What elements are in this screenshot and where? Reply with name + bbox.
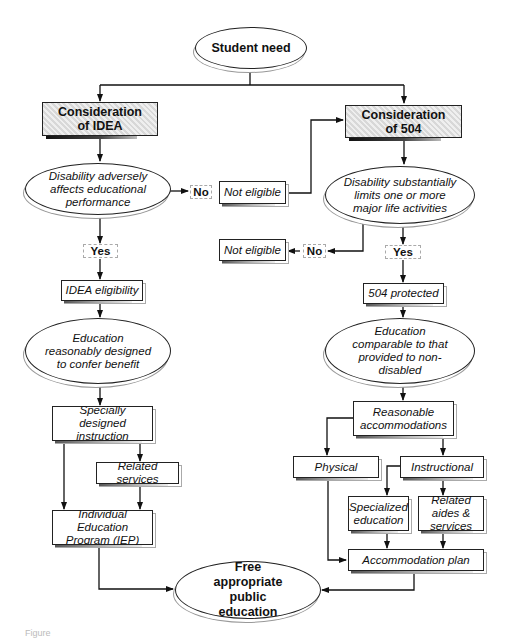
504-protected-label: 504 protected bbox=[368, 287, 438, 300]
specially-designed-label: Specially designed instruction bbox=[57, 404, 148, 443]
student-need-node: Student need bbox=[195, 27, 307, 69]
reasonable-accommodations-node: Reasonable accommodations bbox=[353, 401, 454, 436]
iep-label: Individual Education Program (IEP) bbox=[56, 508, 149, 547]
specialized-education-node: Specialized education bbox=[348, 496, 409, 531]
yes-label-504: Yes bbox=[385, 245, 421, 259]
idea-eligibility-question: Disability adversely affects educational… bbox=[25, 163, 171, 215]
reasonable-accommodations-label: Reasonable accommodations bbox=[360, 406, 447, 432]
physical-node: Physical bbox=[293, 456, 379, 478]
accommodation-plan-label: Accommodation plan bbox=[362, 554, 469, 567]
504-standard-label: Education comparable to that provided to… bbox=[348, 325, 452, 377]
specially-designed-instruction-node: Specially designed instruction bbox=[52, 406, 153, 441]
idea-question-label: Disability adversely affects educational… bbox=[34, 170, 162, 209]
not-eligible-bottom-node: Not eligible bbox=[219, 239, 286, 261]
504-standard-node: Education comparable to that provided to… bbox=[325, 318, 475, 384]
related-services-label: Related services bbox=[97, 460, 178, 486]
student-need-label: Student need bbox=[211, 41, 290, 56]
consideration-idea-node: Consideration of IDEA bbox=[42, 102, 158, 136]
idea-standard-label: Education reasonably designed to confer … bbox=[44, 332, 152, 371]
consideration-504-node: Consideration of 504 bbox=[345, 105, 462, 138]
consideration-idea-label: Consideration of IDEA bbox=[51, 105, 149, 133]
iep-node: Individual Education Program (IEP) bbox=[52, 510, 153, 545]
idea-eligibility-node: IDEA eligibility bbox=[61, 280, 143, 301]
fape-label: Free appropriate public education bbox=[202, 560, 294, 620]
504-question-label: Disability substantially limits one or m… bbox=[340, 176, 460, 215]
not-eligible-top-node: Not eligible bbox=[219, 181, 286, 204]
fape-node: Free appropriate public education bbox=[175, 561, 321, 619]
504-eligibility-question: Disability substantially limits one or m… bbox=[325, 166, 475, 224]
related-aides-node: Related aides & services bbox=[418, 496, 484, 531]
yes-label-idea: Yes bbox=[83, 244, 118, 258]
physical-label: Physical bbox=[315, 461, 358, 474]
specialized-education-label: Specialized education bbox=[349, 501, 408, 527]
no-label-504: No bbox=[303, 244, 326, 258]
instructional-label: Instructional bbox=[411, 461, 473, 474]
related-aides-label: Related aides & services bbox=[420, 494, 482, 533]
not-eligible-top-label: Not eligible bbox=[224, 186, 281, 199]
504-protected-node: 504 protected bbox=[363, 283, 444, 304]
not-eligible-bottom-label: Not eligible bbox=[224, 244, 281, 257]
figure-caption: Figure bbox=[25, 628, 51, 638]
idea-standard-node: Education reasonably designed to confer … bbox=[25, 318, 171, 384]
instructional-node: Instructional bbox=[400, 456, 484, 478]
accommodation-plan-node: Accommodation plan bbox=[348, 549, 484, 571]
consideration-504-label: Consideration of 504 bbox=[354, 108, 453, 136]
idea-eligibility-label: IDEA eligibility bbox=[65, 284, 138, 297]
no-label-idea: No bbox=[190, 185, 212, 199]
related-services-node: Related services bbox=[96, 462, 179, 484]
